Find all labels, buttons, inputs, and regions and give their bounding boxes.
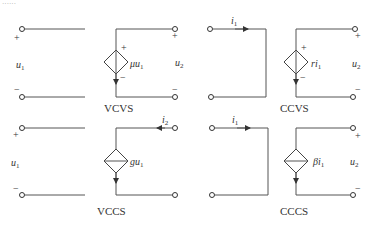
cccs-output-minus: − xyxy=(355,183,361,194)
vccs-output-current-label: i2 xyxy=(162,114,169,127)
ccvs-input-terminal-top xyxy=(208,27,213,32)
ccvs-circuit: i1 + − ri1 + − u2 CCVS xyxy=(208,15,362,114)
vccs-output-terminal-top xyxy=(173,126,178,131)
vccs-input-terminal-bottom xyxy=(20,193,25,198)
vcvs-output-plus: + xyxy=(172,30,178,41)
vccs-input-voltage-label: u1 xyxy=(11,157,20,170)
ccvs-output-plus: + xyxy=(355,30,361,41)
ccvs-output-minus: − xyxy=(355,84,361,95)
cccs-input-terminal-bottom xyxy=(210,193,215,198)
vcvs-caption: VCVS xyxy=(104,102,133,114)
vccs-caption: VCCS xyxy=(97,205,126,217)
vccs-input-terminal-top xyxy=(20,126,25,131)
ccvs-input-current-label: i1 xyxy=(231,15,238,28)
controlled-sources-diagram: ······ + − u1 + − μu1 + − u2 VCVS i1 xyxy=(0,0,375,228)
cccs-output-voltage-label: u2 xyxy=(350,156,359,169)
vcvs-source-minus: − xyxy=(120,72,126,83)
cccs-output-bottom-wire xyxy=(296,173,350,195)
cccs-circuit: i1 βi1 + − u2 CCCS xyxy=(210,114,362,217)
cccs-source-value: βi1 xyxy=(312,156,325,169)
cccs-output-top-wire xyxy=(296,128,350,149)
ccvs-caption: CCVS xyxy=(280,102,309,114)
cccs-input-current-label: i1 xyxy=(232,114,239,127)
ccvs-input-terminal-bottom xyxy=(209,95,214,100)
vccs-output-top-wire xyxy=(116,128,172,149)
vcvs-input-voltage-label: u1 xyxy=(16,59,25,72)
cccs-output-plus: + xyxy=(355,130,361,141)
ccvs-source-value: ri1 xyxy=(311,58,322,71)
ccvs-source-minus: − xyxy=(300,72,306,83)
cccs-caption: CCCS xyxy=(280,205,308,217)
vcvs-circuit: + − u1 + − μu1 + − u2 VCVS xyxy=(14,27,184,115)
vcvs-input-terminal-top xyxy=(20,27,25,32)
ccvs-source-plus: + xyxy=(301,42,307,53)
vccs-output-terminal-bottom xyxy=(173,193,178,198)
vcvs-input-terminal-bottom xyxy=(20,95,25,100)
cccs-input-short-wire xyxy=(215,128,268,195)
vccs-input-minus: − xyxy=(13,183,19,194)
vccs-circuit: + − u1 gu1 i2 VCCS xyxy=(11,114,178,217)
ccvs-output-terminal-bottom xyxy=(351,95,356,100)
cccs-input-terminal-top xyxy=(210,126,215,131)
vcvs-output-voltage-label: u2 xyxy=(175,57,184,70)
vcvs-output-minus: − xyxy=(172,84,178,95)
vcvs-input-minus: − xyxy=(14,84,20,95)
ccvs-output-voltage-label: u2 xyxy=(352,58,361,71)
vcvs-input-plus: + xyxy=(14,32,20,43)
cropped-header-text: ······ xyxy=(2,0,16,7)
vccs-source-value: gu1 xyxy=(130,156,144,169)
vccs-output-bottom-wire xyxy=(116,173,172,195)
vccs-input-plus: + xyxy=(13,129,19,140)
ccvs-input-short-wire xyxy=(213,29,266,97)
vcvs-source-value: μu1 xyxy=(129,58,144,71)
vcvs-source-plus: + xyxy=(121,42,127,53)
vcvs-output-terminal-bottom xyxy=(173,95,178,100)
